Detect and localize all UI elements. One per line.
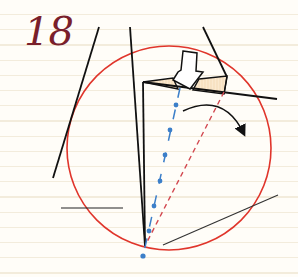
right-upper-edge (203, 27, 227, 77)
valley-fold-dots (140, 103, 178, 259)
diagram-stage: 18 (0, 0, 298, 277)
lower-right-edge (163, 195, 278, 245)
fold-diagram (0, 0, 298, 277)
guide-circle (67, 46, 271, 250)
central-edge-line (130, 27, 145, 246)
valley-fold-line (144, 88, 180, 252)
rotate-arrow-icon (183, 105, 244, 134)
mountain-fold-line (147, 92, 224, 242)
left-edge-line (53, 27, 99, 178)
